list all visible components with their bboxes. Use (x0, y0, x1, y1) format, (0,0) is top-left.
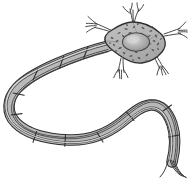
neuron-diagram (0, 0, 188, 182)
figure-background (0, 0, 188, 182)
neuron-illustration (0, 0, 188, 182)
node-of-ranvier (65, 135, 66, 146)
nucleolus-highlight (127, 35, 140, 43)
